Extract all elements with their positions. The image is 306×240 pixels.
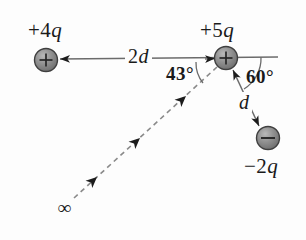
label-charge-plus-5q: +5q bbox=[200, 20, 234, 41]
label-charge-plus-5q-value: 5 bbox=[212, 18, 223, 42]
label-charge-plus-4q-sign: + bbox=[28, 18, 40, 42]
label-distance-2d: 2d bbox=[125, 46, 152, 66]
label-charge-plus-4q-value: 4 bbox=[40, 18, 51, 42]
label-charge-minus-2q: −2q bbox=[244, 156, 278, 177]
label-charge-minus-2q-value: 2 bbox=[256, 154, 267, 178]
label-distance-2d-value: 2 bbox=[128, 45, 139, 67]
label-angle-43: 43° bbox=[166, 64, 194, 83]
charge-sphere-minus-2q bbox=[257, 127, 280, 150]
label-charge-plus-5q-sign: + bbox=[200, 18, 212, 42]
label-distance-d-symbol: d bbox=[239, 91, 250, 113]
charge-sphere-plus-5q bbox=[215, 47, 238, 70]
charge-diagram-figure: +4q +5q −2q 2d d 43° 60° ∞ bbox=[0, 0, 306, 240]
label-infinity: ∞ bbox=[58, 198, 72, 217]
label-charge-minus-2q-sign: − bbox=[244, 154, 256, 178]
baseline-horizontal-line bbox=[60, 57, 278, 59]
label-distance-d: d bbox=[237, 92, 252, 112]
label-angle-60: 60° bbox=[246, 67, 274, 86]
label-charge-plus-4q-symbol: q bbox=[51, 18, 62, 42]
label-charge-plus-5q-symbol: q bbox=[223, 18, 234, 42]
label-distance-2d-symbol: d bbox=[139, 45, 150, 67]
charge-sphere-plus-4q bbox=[35, 49, 58, 72]
baseline-arrow-into-5q bbox=[205, 59, 215, 60]
label-charge-plus-4q: +4q bbox=[28, 20, 62, 41]
label-charge-minus-2q-symbol: q bbox=[267, 154, 278, 178]
